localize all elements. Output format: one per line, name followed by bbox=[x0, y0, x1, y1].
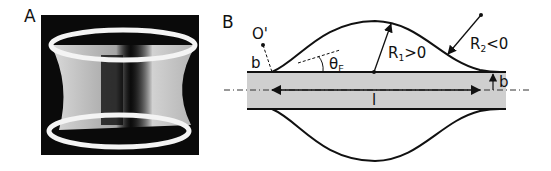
center-label: O' bbox=[252, 27, 268, 42]
theta-subscript: E bbox=[338, 64, 344, 74]
r2-label: R2<0 bbox=[470, 37, 508, 54]
r2-condition: <0 bbox=[486, 35, 508, 53]
droplet-profile-bottom bbox=[272, 109, 500, 161]
contact-angle-arc bbox=[318, 56, 323, 72]
r1-symbol: R bbox=[388, 44, 398, 62]
b-label-left: b bbox=[251, 56, 261, 71]
r1-label: R1>0 bbox=[388, 46, 426, 63]
length-label: l bbox=[372, 93, 376, 108]
b-label-right: b bbox=[499, 75, 509, 90]
theta-symbol: θ bbox=[329, 55, 338, 73]
r1-condition: >0 bbox=[404, 44, 426, 62]
r2-symbol: R bbox=[470, 35, 480, 53]
rod-droplet-diagram bbox=[0, 0, 551, 171]
theta-label: θE bbox=[329, 57, 344, 74]
droplet-profile-top bbox=[272, 21, 500, 72]
